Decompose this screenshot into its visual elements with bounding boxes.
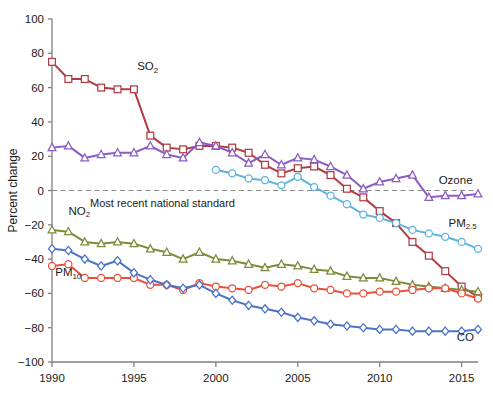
- x-axis-tick-label: 2015: [449, 372, 475, 384]
- series-label-pm25: PM2.5: [449, 217, 478, 232]
- data-point-circle: [262, 281, 269, 288]
- series-label-no2: NO2: [68, 205, 90, 220]
- data-point-square: [344, 185, 351, 192]
- data-point-circle: [245, 175, 252, 182]
- data-point-circle: [425, 230, 432, 237]
- x-axis-tick-label: 1990: [39, 372, 65, 384]
- data-point-square: [311, 163, 318, 170]
- data-point-diamond: [49, 245, 56, 253]
- data-point-triangle: [261, 150, 269, 157]
- data-point-square: [278, 170, 285, 177]
- data-point-circle: [458, 238, 465, 245]
- data-point-triangle: [409, 171, 417, 178]
- x-axis-tick-label: 2010: [367, 372, 393, 384]
- data-point-diamond: [245, 301, 252, 309]
- data-point-circle: [294, 173, 301, 180]
- data-point-circle: [229, 170, 236, 177]
- data-point-square: [65, 76, 72, 83]
- data-point-circle: [343, 290, 350, 297]
- data-point-square: [442, 268, 449, 275]
- data-point-square: [147, 132, 154, 139]
- data-point-triangle: [146, 142, 154, 149]
- data-point-circle: [311, 184, 318, 191]
- y-axis-title: Percent change: [6, 148, 20, 232]
- data-point-diamond: [425, 327, 432, 335]
- y-axis-tick-label: −20: [24, 219, 44, 231]
- data-point-circle: [245, 286, 252, 293]
- reference-line: Most recent national standard: [52, 191, 478, 209]
- data-point-square: [425, 252, 432, 259]
- data-point-circle: [278, 283, 285, 290]
- data-point-diamond: [475, 325, 482, 333]
- data-point-diamond: [65, 246, 72, 254]
- data-point-square: [262, 161, 269, 168]
- data-point-square: [294, 165, 301, 172]
- x-axis-tick-label: 2000: [203, 372, 229, 384]
- y-axis-tick-label: 60: [31, 82, 44, 94]
- data-point-diamond: [343, 322, 350, 330]
- series-label-ozone: Ozone: [439, 174, 473, 186]
- y-axis-tick-label: −80: [24, 322, 44, 334]
- data-point-circle: [98, 274, 105, 281]
- y-axis-tick-label: 80: [31, 47, 44, 59]
- y-axis: 100806040200−20−40−60−80−100: [18, 13, 52, 368]
- data-point-square: [114, 86, 121, 93]
- data-point-circle: [278, 182, 285, 189]
- data-point-square: [98, 84, 105, 91]
- series-label-so2: SO2: [137, 60, 158, 75]
- data-point-circle: [475, 295, 482, 302]
- data-point-diamond: [409, 327, 416, 335]
- y-axis-tick-label: 20: [31, 150, 44, 162]
- reference-line-label: Most recent national standard: [90, 197, 235, 209]
- series-label-pm10: PM10: [55, 266, 82, 281]
- air-quality-trend-chart: 100806040200−20−40−60−80−100 19901995200…: [0, 0, 493, 401]
- data-point-circle: [458, 290, 465, 297]
- x-axis-tick-label: 1995: [121, 372, 147, 384]
- y-axis-tick-label: 40: [31, 116, 44, 128]
- data-point-circle: [327, 192, 334, 199]
- data-point-triangle: [196, 248, 204, 255]
- data-point-circle: [343, 201, 350, 208]
- data-point-circle: [212, 166, 219, 173]
- data-point-diamond: [278, 308, 285, 316]
- data-point-circle: [81, 274, 88, 281]
- data-point-diamond: [81, 255, 88, 263]
- data-point-diamond: [393, 325, 400, 333]
- data-point-square: [376, 208, 383, 215]
- data-point-diamond: [376, 325, 383, 333]
- y-axis-tick-label: −60: [24, 287, 44, 299]
- data-point-circle: [376, 214, 383, 221]
- data-point-circle: [475, 245, 482, 252]
- data-point-square: [360, 194, 367, 201]
- data-point-square: [245, 149, 252, 156]
- y-axis-title-text: Percent change: [6, 148, 20, 232]
- data-point-circle: [409, 286, 416, 293]
- data-point-circle: [262, 177, 269, 184]
- data-point-square: [81, 76, 88, 83]
- data-point-circle: [294, 280, 301, 287]
- data-point-circle: [376, 288, 383, 295]
- data-point-circle: [393, 288, 400, 295]
- data-point-circle: [393, 220, 400, 227]
- y-axis-tick-label: −100: [18, 356, 44, 368]
- data-point-square: [327, 172, 334, 179]
- data-point-diamond: [262, 305, 269, 313]
- x-axis: 199019952000200520102015: [39, 362, 478, 384]
- data-point-circle: [409, 226, 416, 233]
- data-point-circle: [229, 285, 236, 292]
- data-point-diamond: [442, 327, 449, 335]
- data-point-diamond: [212, 289, 219, 297]
- data-point-diamond: [311, 317, 318, 325]
- data-point-diamond: [327, 320, 334, 328]
- data-point-diamond: [229, 296, 236, 304]
- data-point-square: [131, 86, 138, 93]
- data-point-circle: [327, 286, 334, 293]
- series-ozone: [48, 138, 482, 200]
- y-axis-tick-label: −40: [24, 253, 44, 265]
- x-axis-tick-label: 2005: [285, 372, 311, 384]
- y-axis-tick-label: 0: [38, 185, 44, 197]
- data-point-square: [180, 146, 187, 153]
- data-point-diamond: [294, 313, 301, 321]
- chart-plot-area: 100806040200−20−40−60−80−100 19901995200…: [0, 0, 493, 401]
- data-point-square: [409, 239, 416, 246]
